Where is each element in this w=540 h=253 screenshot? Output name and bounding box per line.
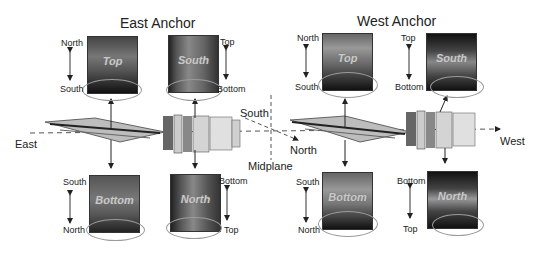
east-anchor-title: East Anchor [120,15,196,31]
orientation-upper-label: South [296,177,320,187]
north-direction-label: North [290,144,317,156]
highlight-ellipse [318,72,378,98]
panel-label: Top [88,55,137,67]
highlight-ellipse [166,217,222,239]
orientation-lower-label: North [298,225,320,235]
highlight-ellipse [430,76,484,98]
orientation-lower-label: South [295,82,319,92]
highlight-ellipse [86,219,145,241]
west-direction-label: West [500,135,525,147]
south-direction-label: South [240,107,269,119]
east-direction-label: East [15,138,37,150]
midplane-label: Midplane [248,160,293,172]
panel-label: North [171,193,220,205]
panel-label: South [169,54,218,66]
panel-label: Bottom [323,191,372,203]
orientation-lower-label: North [63,225,85,235]
orientation-lower-label: South [60,84,84,94]
orientation-lower-label: Bottom [395,82,424,92]
orientation-lower-label: Top [403,224,418,234]
orientation-upper-label: Top [220,37,235,47]
highlight-ellipse [166,79,222,101]
panel-label: South [427,52,476,64]
west-anchor-title: West Anchor [357,13,436,29]
orientation-upper-label: Top [401,33,416,43]
panel-label: Top [323,52,372,64]
orientation-upper-label: South [63,177,87,187]
orientation-upper-label: North [297,33,319,43]
orientation-upper-label: Bottom [397,176,426,186]
orientation-upper-label: North [61,38,83,48]
orientation-lower-label: Bottom [217,84,246,94]
highlight-ellipse [432,214,484,236]
highlight-ellipse [82,79,142,101]
orientation-upper-label: Bottom [219,176,248,186]
orientation-lower-label: Top [224,225,239,235]
panel-label: North [428,190,477,202]
panel-label: Bottom [90,194,139,206]
highlight-ellipse [318,211,378,237]
